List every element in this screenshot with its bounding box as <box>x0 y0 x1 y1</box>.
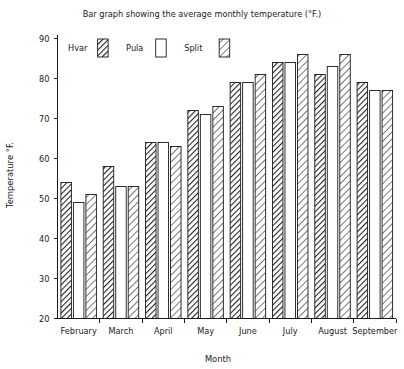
y-axis-title: Temperature °F. <box>5 142 15 209</box>
y-tick-label: 80 <box>39 74 49 84</box>
x-tick-label: June <box>238 326 257 336</box>
x-tick-label: May <box>197 326 214 336</box>
bar <box>327 67 338 319</box>
bar <box>357 83 368 319</box>
bar <box>103 167 114 319</box>
y-tick-label: 90 <box>39 34 49 44</box>
bar <box>297 55 308 319</box>
bar <box>116 187 127 319</box>
bar <box>315 75 326 319</box>
chart-title: Bar graph showing the average monthly te… <box>83 9 322 19</box>
bar <box>188 111 199 319</box>
bar <box>158 143 169 319</box>
bar <box>382 91 393 319</box>
bar <box>128 187 139 319</box>
y-tick-label: 30 <box>39 274 49 284</box>
legend-swatch-pula <box>156 39 167 57</box>
bar <box>171 147 182 319</box>
y-tick-label: 50 <box>39 194 49 204</box>
legend-label-pula: Pula <box>126 43 143 53</box>
bar <box>255 75 266 319</box>
bar <box>146 143 157 319</box>
x-tick-label: July <box>282 326 298 336</box>
bar <box>370 91 381 319</box>
bar <box>86 195 97 319</box>
x-tick-label: February <box>61 326 97 336</box>
legend-label-hvar: Hvar <box>68 43 88 53</box>
x-tick-label: March <box>108 326 133 336</box>
bar <box>73 203 84 319</box>
y-tick-label: 70 <box>39 114 49 124</box>
y-tick-label: 60 <box>39 154 49 164</box>
bar <box>272 63 283 319</box>
bar <box>213 107 224 319</box>
bar <box>243 83 254 319</box>
x-tick-label: April <box>154 326 173 336</box>
bar <box>61 183 72 319</box>
x-tick-label: August <box>318 326 347 336</box>
bar-chart: Bar graph showing the average monthly te… <box>0 0 404 369</box>
legend-swatch-split <box>219 39 230 57</box>
bar <box>285 63 296 319</box>
y-tick-label: 20 <box>39 314 49 324</box>
bar <box>200 115 211 319</box>
chart-canvas: Bar graph showing the average monthly te… <box>0 0 404 369</box>
legend-label-split: Split <box>184 43 203 53</box>
y-tick-label: 40 <box>39 234 49 244</box>
bar <box>340 55 351 319</box>
x-tick-label: September <box>352 326 398 336</box>
legend-swatch-hvar <box>98 39 109 57</box>
x-axis-title: Month <box>205 354 231 364</box>
bar <box>230 83 241 319</box>
